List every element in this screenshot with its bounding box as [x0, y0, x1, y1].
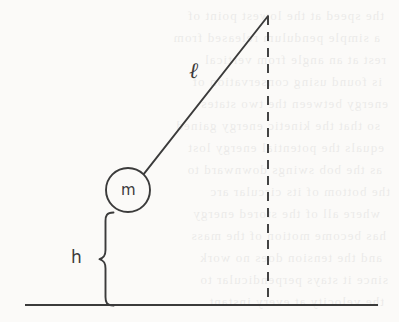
pendulum-string: [144, 16, 268, 174]
height-label: h: [71, 249, 82, 266]
pendulum-diagram: [0, 0, 399, 322]
height-brace: [100, 213, 114, 306]
figure-canvas: the speed at the lowest point ofa simple…: [0, 0, 399, 322]
mass-label: m: [121, 183, 136, 198]
length-label: ℓ: [189, 60, 198, 82]
